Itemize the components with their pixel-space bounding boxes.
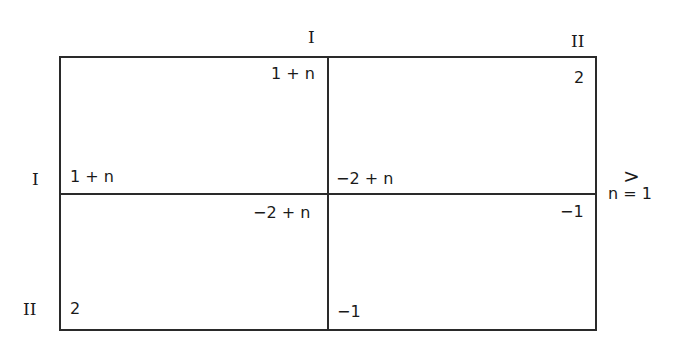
grid-right-border xyxy=(595,58,597,331)
grid-horizontal-divider xyxy=(59,193,597,195)
cell-2-2-row-payoff: −1 xyxy=(337,302,361,321)
cell-1-2-row-payoff: −2 + n xyxy=(336,169,393,188)
row-label-2: II xyxy=(23,299,36,319)
condition-note: n = 1 xyxy=(608,184,652,203)
cell-1-2-col-payoff: 2 xyxy=(574,68,584,87)
cell-2-1-row-payoff: 2 xyxy=(70,299,80,318)
row-label-1: I xyxy=(32,169,39,189)
cell-1-1-col-payoff: 1 + n xyxy=(271,64,315,83)
cell-2-2-col-payoff: −1 xyxy=(560,202,584,221)
col-label-1: I xyxy=(308,27,315,47)
cell-2-1-col-payoff: −2 + n xyxy=(253,203,310,222)
cell-1-1-row-payoff: 1 + n xyxy=(70,167,114,186)
col-label-2: II xyxy=(571,31,584,51)
